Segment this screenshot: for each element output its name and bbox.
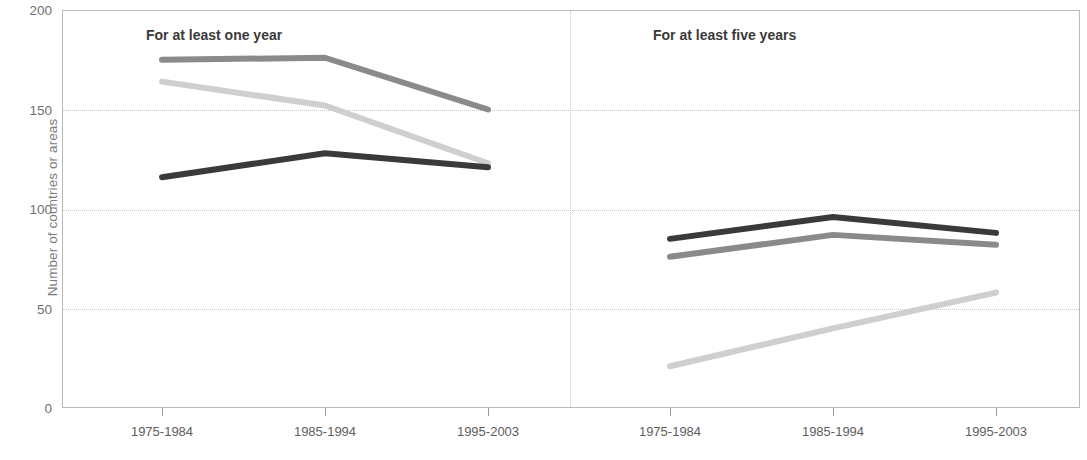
y-tick-label: 200 [6,3,52,18]
x-tick-label: 1975-1984 [131,424,193,439]
x-tick-mark [833,408,834,416]
y-tick-label: 50 [6,302,52,317]
line-chart: Number of countries or areas 200 150 100… [0,0,1087,460]
plot-area [62,10,1080,408]
panel-divider [570,11,571,407]
gridline-150 [63,110,1079,111]
x-tick-label: 1985-1994 [802,424,864,439]
x-tick-mark [488,408,489,416]
y-axis-tick-labels: 200 150 100 50 0 [0,0,52,460]
y-tick-label: 0 [6,401,52,416]
x-tick-label: 1985-1994 [294,424,356,439]
gridline-100 [63,210,1079,211]
x-tick-mark [325,408,326,416]
x-tick-mark [670,408,671,416]
y-tick-label: 150 [6,103,52,118]
x-tick-label: 1995-2003 [457,424,519,439]
panel-title-right: For at least five years [653,27,796,43]
x-tick-label: 1995-2003 [965,424,1027,439]
panel-title-left: For at least one year [146,27,282,43]
x-tick-mark [996,408,997,416]
x-tick-label: 1975-1984 [639,424,701,439]
x-tick-mark [162,408,163,416]
gridline-50 [63,309,1079,310]
y-tick-label: 100 [6,202,52,217]
